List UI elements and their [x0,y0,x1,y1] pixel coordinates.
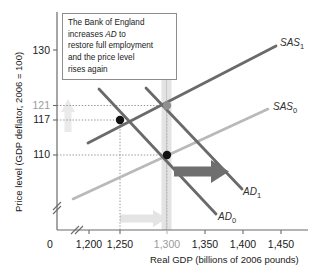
curve-label-ad0-sub: 0 [232,216,236,225]
point-equilibrium-1300-110 [163,151,171,159]
curve-label-ad1-sub: 1 [257,191,261,200]
x-tick-label-1450: 1,450 [262,238,300,250]
policy-note-line-3: restore full employment [68,40,172,52]
x-tick-label-1300: 1,300 [148,238,186,250]
x-tick-label-1350: 1,350 [186,238,224,250]
chart-figure: Price level (GDP deflator, 2006 = 100) 1… [0,0,316,274]
curve-label-sas0-sub: 0 [293,106,297,115]
policy-note-line-1: The Bank of England [68,17,172,29]
policy-note-box: The Bank of England increases AD to rest… [62,13,177,80]
curve-label-ad0-text: AD [218,211,232,222]
policy-note-ad-term: AD [105,30,116,39]
guide-lines [57,106,167,231]
y-tick-label-121: 121 [24,99,50,111]
x-tick-label-0: 0 [40,238,60,250]
y-tick-label-117: 117 [24,113,50,125]
curve-label-ad0: AD0 [218,211,236,225]
x-tick-label-1400: 1,400 [224,238,262,250]
policy-note-line-2-pre: increases [68,30,105,39]
curve-label-ad1-text: AD [243,186,257,197]
curve-label-sas0: SAS0 [273,101,297,115]
y-axis-title: Price level (GDP deflator, 2006 = 100) [13,52,24,212]
policy-note-line-4: and the price level [68,52,172,64]
x-tick-label-1250: 1,250 [101,238,139,250]
point-equilibrium-1250-117 [116,116,124,124]
policy-note-line-2-post: to [117,30,126,39]
curve-label-sas1-text: SAS [280,37,300,48]
curve-label-sas1-sub: 1 [300,42,304,51]
point-equilibrium-1300-121 [163,101,171,109]
gdp-recovery-arrow [120,210,167,227]
curve-label-sas0-text: SAS [273,101,293,112]
y-tick-label-130: 130 [24,44,50,56]
policy-note-line-5: rises again [68,64,172,76]
curve-label-ad1: AD1 [243,186,261,200]
y-tick-label-110: 110 [24,148,50,160]
x-axis-title: Real GDP (billions of 2006 pounds) [150,254,299,265]
price-level-rise-arrow [61,99,75,132]
policy-note-line-2: increases AD to [68,29,172,41]
x-tick-marks [89,230,281,234]
curve-label-sas1: SAS1 [280,37,304,51]
